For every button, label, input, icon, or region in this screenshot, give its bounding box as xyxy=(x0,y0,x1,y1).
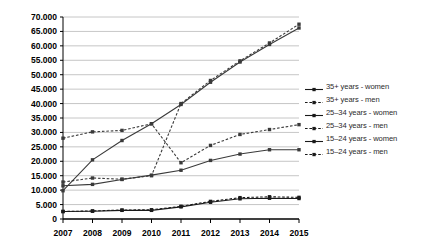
legend-marker-icon xyxy=(305,81,323,92)
series-line xyxy=(63,197,299,212)
series-line xyxy=(63,28,299,191)
data-point-marker xyxy=(209,79,212,82)
data-point-marker xyxy=(150,208,153,211)
x-tick-label: 2007 xyxy=(54,228,73,238)
legend-item[interactable]: 15–24 years - men xyxy=(305,145,426,158)
y-axis-tick-labels: 70.00065.00060.00055.00050.00045.00040.0… xyxy=(31,12,57,224)
data-point-marker xyxy=(120,129,123,132)
data-point-marker xyxy=(91,183,94,186)
y-tick-label: 70.000 xyxy=(31,12,57,22)
legend-item-label: 35+ years - women xyxy=(326,81,389,92)
y-tick-label: 20.000 xyxy=(31,156,57,166)
series-25-34-years-women xyxy=(61,148,300,187)
x-tick-label: 2010 xyxy=(142,228,161,238)
legend-marker-icon xyxy=(305,107,323,118)
y-tick-label: 35.000 xyxy=(31,113,57,123)
legend-marker-icon xyxy=(305,146,323,157)
data-point-marker xyxy=(268,128,271,131)
x-tick-label: 2014 xyxy=(260,228,279,238)
data-point-marker xyxy=(297,23,300,26)
x-tick-label: 2013 xyxy=(231,228,250,238)
data-point-marker xyxy=(268,148,271,151)
legend-item[interactable]: 25–34 years - women xyxy=(305,106,426,119)
legend-item[interactable]: 35+ years - women xyxy=(305,80,426,93)
data-point-marker xyxy=(120,208,123,211)
y-tick-label: 40.000 xyxy=(31,99,57,109)
legend-item-label: 15–24 years - men xyxy=(326,146,388,157)
data-point-marker xyxy=(150,173,153,176)
data-point-marker xyxy=(150,122,153,125)
legend-item[interactable]: 25–34 years - men xyxy=(305,119,426,132)
x-tick-label: 2015 xyxy=(290,228,309,238)
y-tick-label: 45.000 xyxy=(31,84,57,94)
legend-marker-icon xyxy=(305,133,323,144)
data-point-marker xyxy=(61,180,64,183)
y-tick-label: 50.000 xyxy=(31,70,57,80)
chart-legend: 35+ years - women35+ years - men25–34 ye… xyxy=(305,80,426,158)
data-point-marker xyxy=(179,169,182,172)
data-point-marker xyxy=(61,210,64,213)
y-tick-label: 30.000 xyxy=(31,127,57,137)
y-tick-label: 60.000 xyxy=(31,41,57,51)
data-point-marker xyxy=(238,59,241,62)
y-tick-label: 5.000 xyxy=(36,200,58,210)
x-tick-label: 2012 xyxy=(201,228,220,238)
y-axis xyxy=(60,17,63,219)
data-point-marker xyxy=(61,184,64,187)
data-point-marker xyxy=(297,196,300,199)
y-tick-label: 65.000 xyxy=(31,26,57,36)
x-tick-label: 2008 xyxy=(83,228,102,238)
legend-marker-icon xyxy=(305,94,323,105)
data-point-marker xyxy=(179,161,182,164)
legend-item-label: 35+ years - men xyxy=(326,94,380,105)
data-point-marker xyxy=(268,195,271,198)
data-point-marker xyxy=(209,200,212,203)
series-25-34-years-men xyxy=(61,122,300,164)
data-point-marker xyxy=(209,159,212,162)
data-point-marker xyxy=(297,148,300,151)
series-line xyxy=(63,150,299,186)
y-tick-label: 25.000 xyxy=(31,142,57,152)
data-point-marker xyxy=(297,123,300,126)
legend-item[interactable]: 15–24 years - women xyxy=(305,132,426,145)
line-chart: 70.00065.00060.00055.00050.00045.00040.0… xyxy=(0,0,426,251)
data-point-marker xyxy=(61,189,64,192)
data-point-marker xyxy=(179,205,182,208)
series-line xyxy=(63,124,299,163)
legend-item[interactable]: 35+ years - men xyxy=(305,93,426,106)
data-point-marker xyxy=(91,176,94,179)
data-point-marker xyxy=(91,130,94,133)
data-point-marker xyxy=(238,152,241,155)
data-point-marker xyxy=(268,41,271,44)
x-axis xyxy=(63,219,299,223)
x-tick-label: 2009 xyxy=(113,228,132,238)
legend-marker-icon xyxy=(305,120,323,131)
data-point-marker xyxy=(61,137,64,140)
y-tick-label: 0 xyxy=(52,214,57,224)
data-point-marker xyxy=(238,196,241,199)
legend-item-label: 15–24 years - women xyxy=(326,133,397,144)
y-tick-label: 55.000 xyxy=(31,55,57,65)
series-35-years-women xyxy=(61,26,300,192)
legend-item-label: 25–34 years - men xyxy=(326,120,388,131)
x-tick-label: 2011 xyxy=(172,228,191,238)
legend-item-label: 25–34 years - women xyxy=(326,107,397,118)
data-point-marker xyxy=(91,158,94,161)
data-point-marker xyxy=(91,209,94,212)
data-point-marker xyxy=(297,26,300,29)
x-axis-tick-labels: 200720082009201020112012201320142015 xyxy=(54,228,309,238)
data-point-marker xyxy=(120,139,123,142)
data-point-marker xyxy=(179,102,182,105)
data-point-marker xyxy=(209,144,212,147)
data-point-marker xyxy=(120,178,123,181)
data-point-marker xyxy=(238,133,241,136)
y-tick-label: 10.000 xyxy=(31,185,57,195)
y-tick-label: 15.000 xyxy=(31,171,57,181)
